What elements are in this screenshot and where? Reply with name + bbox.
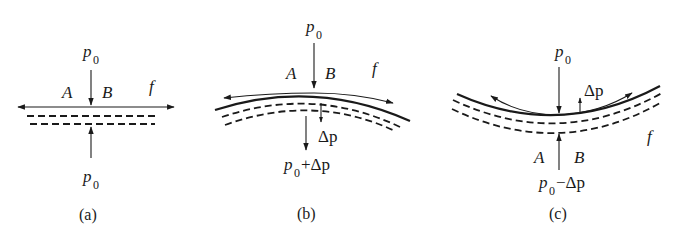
friction-arrow-left — [491, 96, 559, 115]
panel-c: p 0 Δp f A B p 0 −Δp (c) — [452, 42, 662, 223]
bottom-load-suffix: +Δp — [301, 155, 330, 174]
bottom-load-label: p — [82, 167, 92, 186]
bottom-load-subscript: 0 — [294, 166, 300, 180]
belt-layer-2 — [452, 103, 660, 133]
belt-layer-2 — [225, 110, 395, 131]
top-load-label: p — [305, 17, 315, 36]
belt-pressure-diagram: p 0 A B f p 0 (a) p 0 A B f Δp — [0, 0, 679, 240]
point-a-label: A — [533, 148, 545, 167]
point-b-label: B — [325, 64, 336, 83]
delta-load-label: Δp — [584, 81, 603, 100]
bottom-load-label: p — [283, 155, 293, 174]
top-load-label: p — [82, 42, 92, 61]
friction-label: f — [149, 77, 156, 96]
caption-a: (a) — [79, 206, 97, 224]
caption-b: (b) — [297, 205, 316, 223]
bottom-load-subscript: 0 — [549, 184, 555, 198]
friction-label: f — [647, 127, 654, 146]
panel-a: p 0 A B f p 0 (a) — [18, 42, 174, 224]
delta-load-label: Δp — [318, 127, 337, 146]
top-load-subscript: 0 — [93, 53, 99, 67]
top-load-subscript: 0 — [316, 28, 322, 42]
friction-label: f — [372, 59, 379, 78]
belt-layer-1 — [453, 93, 662, 123]
panel-b: p 0 A B f Δp p 0 +Δp (b) — [215, 17, 410, 223]
bottom-load-suffix: −Δp — [556, 173, 585, 192]
point-b-label: B — [102, 83, 113, 102]
caption-c: (c) — [549, 205, 567, 223]
top-load-label: p — [554, 42, 564, 61]
bottom-load-subscript: 0 — [93, 178, 99, 192]
top-load-subscript: 0 — [565, 53, 571, 67]
point-a-label: A — [61, 83, 73, 102]
bottom-load-label: p — [538, 173, 548, 192]
point-b-label: B — [574, 148, 585, 167]
point-a-label: A — [285, 64, 297, 83]
